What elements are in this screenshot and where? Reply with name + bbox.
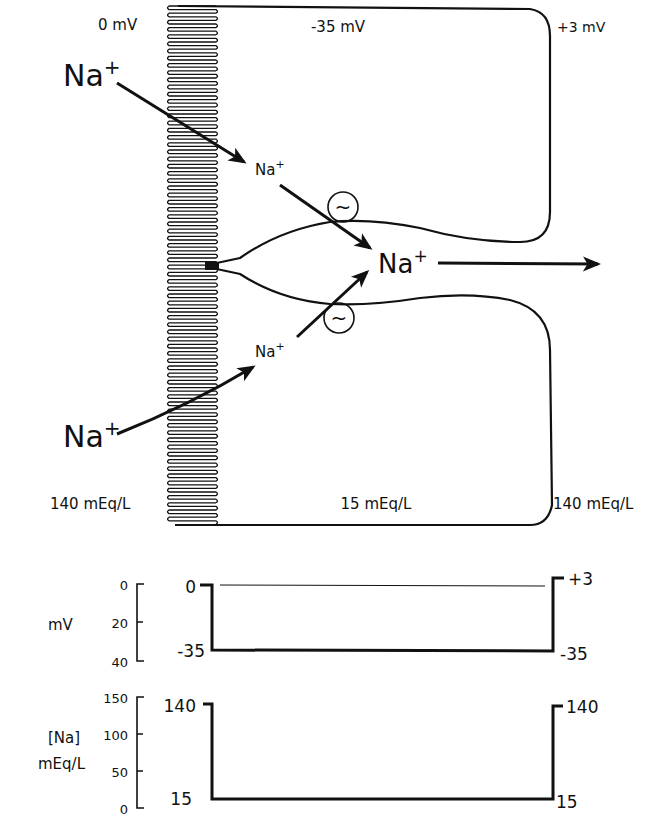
interstitial-concentration-label: 140 mEq/L <box>553 495 634 513</box>
na-axis-label-line2: mEq/L <box>38 755 86 773</box>
membrane-potential-chart: mV 0 20 40 0 -35 +3 -35 <box>48 569 593 670</box>
svg-text:15: 15 <box>170 789 192 809</box>
svg-text:Na+: Na+ <box>63 55 121 93</box>
na-axis-label-line1: [Na] <box>48 729 80 747</box>
apical-potential-label: 0 mV <box>98 16 138 34</box>
svg-text:50: 50 <box>111 765 128 780</box>
mv-profile-line <box>200 578 564 651</box>
cell-potential-label: -35 mV <box>311 18 366 36</box>
svg-text:Na+: Na+ <box>255 340 285 361</box>
ion-label-cell-bottom: Na+ <box>255 340 285 361</box>
svg-text:0: 0 <box>120 802 128 817</box>
svg-text:Na+: Na+ <box>378 246 428 279</box>
svg-text:~: ~ <box>335 195 352 219</box>
svg-text:~: ~ <box>331 306 348 330</box>
svg-text:0: 0 <box>120 578 128 593</box>
svg-text:+3: +3 <box>568 569 593 589</box>
sodium-pump-icon-top: ~ <box>328 192 358 222</box>
svg-text:140: 140 <box>566 697 598 717</box>
na-profile-line <box>203 704 563 799</box>
lumen-concentration-label: 140 mEq/L <box>50 495 131 513</box>
svg-text:150: 150 <box>103 691 128 706</box>
na-axis <box>137 697 144 808</box>
ion-label-intercellular: Na+ <box>378 246 428 279</box>
mv-axis-label: mV <box>48 616 74 634</box>
svg-text:20: 20 <box>111 616 128 631</box>
svg-text:-35: -35 <box>560 644 588 664</box>
epithelial-sodium-transport-diagram: ~ ~ 0 mV -35 mV +3 mV 140 mEq/L 15 mEq/L… <box>0 0 647 821</box>
ion-label-cell-top: Na+ <box>255 158 285 179</box>
arrow-cell-to-space-top <box>280 185 370 248</box>
basolateral-potential-label: +3 mV <box>557 19 606 35</box>
upper-cell-outline <box>178 6 550 264</box>
svg-text:140: 140 <box>164 696 196 716</box>
svg-text:15: 15 <box>556 792 578 812</box>
svg-text:-35: -35 <box>177 641 205 661</box>
sodium-pump-icon-bottom: ~ <box>324 303 354 333</box>
ion-label-lumen-top: Na+ <box>63 55 121 93</box>
mv-axis <box>137 584 144 661</box>
sodium-concentration-chart: [Na] mEq/L 150 100 50 0 140 15 140 15 <box>38 691 598 817</box>
svg-text:100: 100 <box>103 728 128 743</box>
svg-text:Na+: Na+ <box>255 158 285 179</box>
svg-text:0: 0 <box>185 577 196 597</box>
svg-text:40: 40 <box>111 655 128 670</box>
arrow-to-interstitium <box>438 263 598 264</box>
cell-concentration-label: 15 mEq/L <box>341 495 413 513</box>
lower-cell-outline <box>175 268 552 525</box>
ion-label-lumen-bottom: Na+ <box>63 416 121 454</box>
tight-junction <box>205 262 219 270</box>
zero-reference-line <box>220 585 545 586</box>
svg-text:Na+: Na+ <box>63 416 121 454</box>
